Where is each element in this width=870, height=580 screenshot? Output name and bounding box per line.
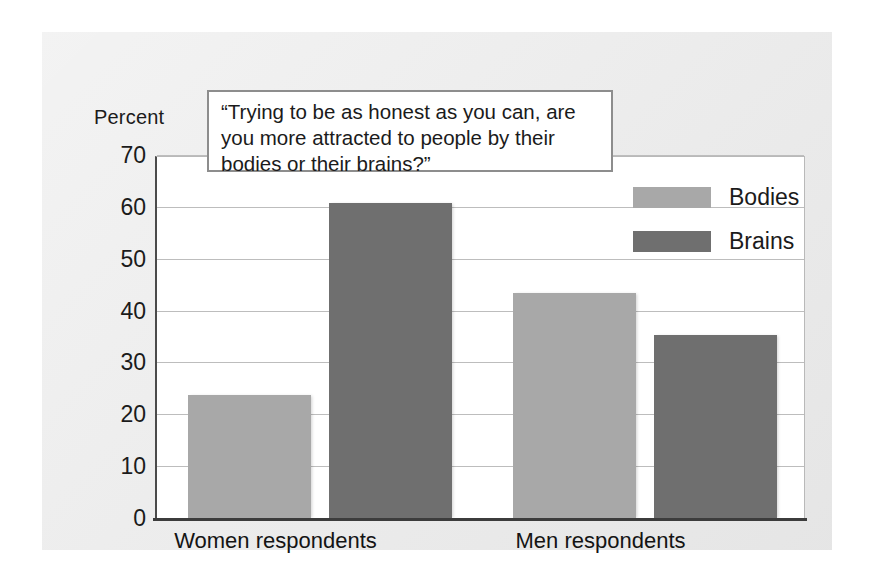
y-tick-label: 10: [86, 455, 146, 478]
question-callout: “Trying to be as honest as you can, are …: [207, 90, 613, 172]
bar-men-bodies: [513, 293, 636, 519]
legend-item-bodies: Bodies: [633, 180, 808, 214]
x-category-label: Women respondents: [126, 528, 426, 554]
x-axis-baseline: [153, 518, 807, 521]
bar-women-brains: [329, 203, 452, 519]
legend-swatch-bodies: [633, 187, 711, 208]
legend-label: Bodies: [729, 184, 799, 211]
y-tick-label: 0: [86, 507, 146, 530]
y-tick-label: 70: [86, 144, 146, 167]
chart-legend: BodiesBrains: [633, 180, 808, 268]
y-axis-title: Percent: [94, 106, 164, 129]
bar-women-bodies: [188, 395, 311, 519]
y-tick-label: 60: [86, 196, 146, 219]
legend-item-brains: Brains: [633, 224, 808, 258]
legend-label: Brains: [729, 228, 794, 255]
figure-panel: Percent 010203040506070 Women respondent…: [42, 32, 832, 550]
bar-men-brains: [654, 335, 777, 519]
figure-root: Percent 010203040506070 Women respondent…: [0, 0, 870, 580]
y-tick-label: 30: [86, 351, 146, 374]
y-tick-label: 50: [86, 248, 146, 271]
y-axis-tick-labels: 010203040506070: [80, 156, 146, 519]
y-tick-label: 20: [86, 403, 146, 426]
legend-swatch-brains: [633, 231, 711, 252]
x-category-label: Men respondents: [451, 528, 751, 554]
y-tick-label: 40: [86, 300, 146, 323]
gridline: [157, 311, 804, 312]
